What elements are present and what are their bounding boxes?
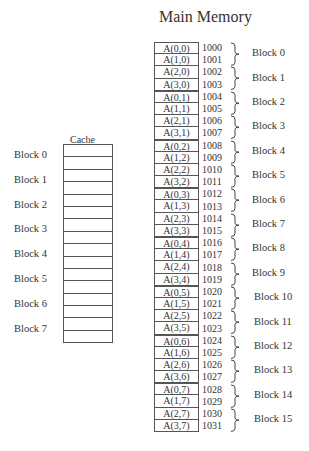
memory-address: 1025 xyxy=(202,347,222,359)
memory-cell: A(2,3) xyxy=(154,213,199,225)
memory-block-label: Block 10 xyxy=(254,291,292,302)
cache-line xyxy=(64,294,112,306)
memory-block-label: Block 15 xyxy=(254,413,292,424)
memory-address: 1029 xyxy=(202,396,222,408)
memory-block-label: Block 14 xyxy=(254,389,292,400)
memory-cell: A(0,0) xyxy=(154,42,199,54)
memory-address: 1013 xyxy=(202,201,222,213)
memory-address: 1016 xyxy=(202,237,222,249)
main-memory-table: A(0,0)A(1,0)A(2,0)A(3,0)A(0,1)A(1,1)A(2,… xyxy=(154,42,199,432)
memory-address: 1023 xyxy=(202,323,222,335)
memory-block-label: Block 9 xyxy=(252,267,285,278)
brace-icon xyxy=(229,310,243,334)
cache-line xyxy=(64,170,112,182)
brace-icon xyxy=(229,286,243,310)
memory-cell: A(2,4) xyxy=(154,261,199,273)
memory-address: 1001 xyxy=(202,54,222,66)
memory-block-label: Block 8 xyxy=(252,242,285,253)
cache-line xyxy=(64,207,112,219)
cache-block-label: Block 6 xyxy=(14,298,47,309)
cache-line xyxy=(64,257,112,269)
memory-cell: A(0,5) xyxy=(154,286,199,298)
brace-icon xyxy=(229,359,243,383)
memory-cell: A(3,5) xyxy=(154,322,199,334)
cache-block-label: Block 3 xyxy=(14,223,47,234)
memory-cell: A(2,5) xyxy=(154,310,199,322)
cache-line xyxy=(64,195,112,207)
memory-cell: A(3,2) xyxy=(154,176,199,188)
cache-block-label: Block 2 xyxy=(14,199,47,210)
cache-block-label: Block 0 xyxy=(14,149,47,160)
main-memory-title: Main Memory xyxy=(159,8,252,26)
brace-icon xyxy=(229,115,243,139)
memory-block-label: Block 3 xyxy=(252,120,285,131)
memory-address: 1024 xyxy=(202,335,222,347)
memory-address: 1011 xyxy=(202,176,222,188)
memory-address: 1030 xyxy=(202,408,222,420)
memory-cell: A(2,7) xyxy=(154,408,199,420)
memory-cell: A(2,2) xyxy=(154,164,199,176)
memory-cell: A(3,0) xyxy=(154,79,199,91)
memory-address: 1017 xyxy=(202,249,222,261)
memory-cell: A(0,4) xyxy=(154,237,199,249)
brace-icon xyxy=(229,408,243,432)
memory-block-label: Block 6 xyxy=(252,194,285,205)
cache-line xyxy=(64,232,112,244)
memory-block-label: Block 2 xyxy=(252,96,285,107)
memory-cell: A(3,7) xyxy=(154,420,199,432)
cache-block-label: Block 7 xyxy=(14,323,47,334)
memory-address: 1031 xyxy=(202,420,222,432)
memory-address: 1003 xyxy=(202,79,222,91)
memory-address: 1010 xyxy=(202,164,222,176)
memory-address: 1009 xyxy=(202,152,222,164)
brace-icon xyxy=(229,66,243,90)
memory-block-label: Block 1 xyxy=(252,72,285,83)
memory-address: 1026 xyxy=(202,359,222,371)
memory-cell: A(3,1) xyxy=(154,127,199,139)
memory-cell: A(3,3) xyxy=(154,225,199,237)
brace-icon xyxy=(229,91,243,115)
cache-table xyxy=(63,144,113,343)
memory-address: 1000 xyxy=(202,42,222,54)
cache-line xyxy=(64,281,112,293)
memory-block-label: Block 13 xyxy=(254,364,292,375)
brace-icon xyxy=(229,42,243,66)
brace-icon xyxy=(229,237,243,261)
memory-address: 1020 xyxy=(202,286,222,298)
memory-block-label: Block 4 xyxy=(252,145,285,156)
cache-block-label: Block 5 xyxy=(14,273,47,284)
memory-block-label: Block 12 xyxy=(254,340,292,351)
memory-cell: A(1,5) xyxy=(154,298,199,310)
memory-address: 1008 xyxy=(202,140,222,152)
cache-block-label: Block 1 xyxy=(14,174,47,185)
memory-cell: A(2,6) xyxy=(154,359,199,371)
memory-cell: A(2,0) xyxy=(154,66,199,78)
brace-icon xyxy=(229,164,243,188)
memory-address: 1018 xyxy=(202,262,222,274)
memory-cell: A(3,6) xyxy=(154,371,199,383)
memory-cell: A(1,3) xyxy=(154,200,199,212)
cache-line xyxy=(64,219,112,231)
memory-address: 1014 xyxy=(202,213,222,225)
memory-block-label: Block 7 xyxy=(252,218,285,229)
brace-icon xyxy=(229,335,243,359)
cache-line xyxy=(64,306,112,318)
memory-cell: A(0,3) xyxy=(154,188,199,200)
memory-address: 1019 xyxy=(202,274,222,286)
brace-icon xyxy=(229,188,243,212)
memory-cell: A(0,7) xyxy=(154,383,199,395)
memory-address: 1028 xyxy=(202,384,222,396)
cache-line xyxy=(64,244,112,256)
cache-line xyxy=(64,318,112,330)
memory-cell: A(1,7) xyxy=(154,395,199,407)
memory-address: 1007 xyxy=(202,127,222,139)
memory-address: 1012 xyxy=(202,188,222,200)
memory-cell: A(1,4) xyxy=(154,249,199,261)
brace-icon xyxy=(229,384,243,408)
memory-cell: A(0,1) xyxy=(154,91,199,103)
memory-block-label: Block 0 xyxy=(252,47,285,58)
memory-block-label: Block 11 xyxy=(254,316,292,327)
memory-address: 1004 xyxy=(202,91,222,103)
brace-icon xyxy=(229,213,243,237)
memory-cell: A(2,1) xyxy=(154,115,199,127)
